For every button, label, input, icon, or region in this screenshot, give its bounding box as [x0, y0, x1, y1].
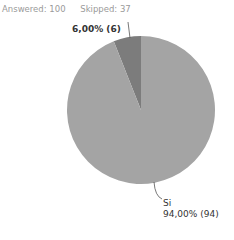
slice-label-no: 6,00% (6)	[72, 24, 121, 35]
leader-line-si	[154, 182, 162, 199]
pie-slice-si	[67, 36, 215, 184]
slice-label-si: Si 94,00% (94)	[163, 198, 219, 220]
leader-line-no	[128, 22, 130, 38]
